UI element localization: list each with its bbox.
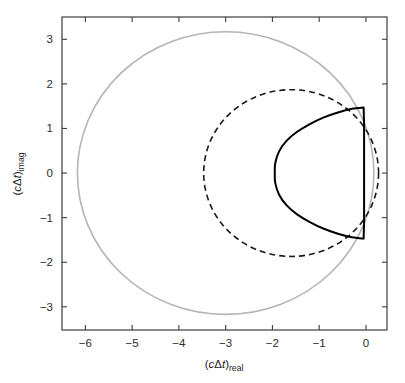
complex-plane-plot: −6−5−4−3−2−10 3210−1−2−3 (cΔt)real (cΔt)… [0,0,405,383]
x-axis-title: (cΔt)real [205,358,244,373]
x-tick-label: −3 [219,337,232,349]
y-tick-label: −1 [40,212,53,224]
x-axis-tick-labels: −6−5−4−3−2−10 [79,337,369,349]
y-axis-title: (cΔt)imag [11,152,26,195]
x-tick-label: −4 [172,337,186,349]
y-tick-label: 2 [47,78,53,90]
y-tick-label: −2 [40,256,53,268]
y-axis-tick-labels: 3210−1−2−3 [40,33,53,313]
x-tick-label: −2 [266,337,279,349]
x-tick-label: 0 [363,337,369,349]
y-tick-label: −3 [40,301,53,313]
plot-background [62,17,387,330]
y-tick-label: 1 [47,122,53,134]
x-tick-label: −1 [313,337,326,349]
y-tick-label: 3 [47,33,53,45]
x-tick-label: −5 [126,337,139,349]
y-tick-label: 0 [47,167,53,179]
x-tick-label: −6 [79,337,92,349]
figure-container: −6−5−4−3−2−10 3210−1−2−3 (cΔt)real (cΔt)… [0,0,405,383]
